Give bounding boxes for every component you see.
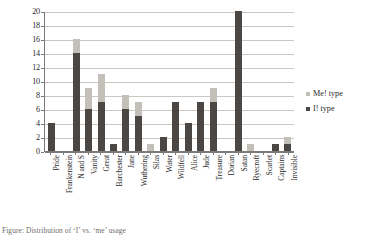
- x-axis-category-label: Dorian: [228, 155, 236, 176]
- bar-stack: [272, 144, 279, 151]
- bar-slot: [157, 12, 169, 151]
- bar-segment-me-type: [85, 88, 92, 109]
- legend: Me! typeI! type: [306, 88, 343, 118]
- bar-stack: [172, 102, 179, 151]
- x-axis-category-label: Barchester: [116, 155, 124, 186]
- y-axis-tick-label: 4: [36, 120, 40, 128]
- bar-series-container: [45, 12, 294, 151]
- bar-segment-i-type: [197, 102, 204, 151]
- bar-slot: [207, 12, 219, 151]
- x-axis-category-label: Treasure: [216, 155, 224, 181]
- bar-stack: [247, 144, 254, 151]
- y-axis: 02468101214161820: [0, 12, 40, 152]
- legend-swatch-icon: [306, 107, 310, 111]
- bar-slot: [219, 12, 231, 151]
- bar-stack: [235, 11, 242, 151]
- y-axis-tick-label: 2: [36, 134, 40, 142]
- bar-segment-me-type: [122, 95, 129, 109]
- bar-segment-i-type: [73, 53, 80, 151]
- bar-stack: [110, 144, 117, 151]
- bar-slot: [244, 12, 256, 151]
- x-axis-category-label: Frankenstein: [66, 155, 74, 193]
- y-axis-tick-label: 16: [32, 36, 40, 44]
- bar-slot: [82, 12, 94, 151]
- bar-segment-i-type: [210, 102, 217, 151]
- x-axis-category-label: Satan: [241, 155, 249, 171]
- x-axis-category-label: Wuthering: [141, 155, 149, 186]
- bar-segment-me-type: [247, 144, 254, 151]
- bar-segment-me-type: [135, 102, 142, 116]
- bar-segment-i-type: [284, 144, 291, 151]
- x-axis-labels: PrideFrankensteinN and SVanityGreatBarch…: [44, 155, 294, 227]
- x-axis-category-label: Captains: [278, 155, 286, 181]
- y-axis-tick-label: 10: [32, 78, 40, 86]
- bar-slot: [107, 12, 119, 151]
- bar-stack: [48, 123, 55, 151]
- x-axis-category-label: Pride: [53, 155, 61, 171]
- x-axis-category-label: Great: [103, 155, 111, 171]
- bar-segment-i-type: [135, 116, 142, 151]
- bar-slot: [145, 12, 157, 151]
- bar-stack: [73, 39, 80, 151]
- bar-segment-i-type: [85, 109, 92, 151]
- y-axis-tick-label: 20: [32, 8, 40, 16]
- bar-stack: [122, 95, 129, 151]
- bar-slot: [70, 12, 82, 151]
- bar-slot: [269, 12, 281, 151]
- y-axis-tick-label: 14: [32, 50, 40, 58]
- figure-caption: Figure: Distribution of ‘I’ vs. ‘me’ usa…: [2, 226, 126, 235]
- bar-segment-me-type: [98, 74, 105, 102]
- bar-stack: [284, 137, 291, 151]
- bar-stack: [85, 88, 92, 151]
- bar-slot: [132, 12, 144, 151]
- bar-slot: [57, 12, 69, 151]
- bar-segment-i-type: [185, 123, 192, 151]
- y-axis-tick-label: 18: [32, 22, 40, 30]
- bar-slot: [257, 12, 269, 151]
- y-axis-tick-label: 6: [36, 106, 40, 114]
- x-axis-category-label: Wildfell: [178, 155, 186, 179]
- bar-stack: [197, 102, 204, 151]
- bar-segment-i-type: [172, 102, 179, 151]
- x-axis-category-label: Water: [166, 155, 174, 172]
- bar-stack: [185, 123, 192, 151]
- x-axis-category-label: Ryecroft: [253, 155, 261, 180]
- bar-segment-me-type: [284, 137, 291, 144]
- y-axis-tick-label: 0: [36, 148, 40, 156]
- bar-segment-i-type: [122, 109, 129, 151]
- bar-chart: 02468101214161820 PrideFrankensteinN and…: [0, 0, 386, 236]
- legend-item-label: I! type: [313, 103, 335, 114]
- bar-stack: [147, 144, 154, 151]
- legend-swatch-icon: [306, 92, 310, 96]
- y-axis-tick-label: 8: [36, 92, 40, 100]
- legend-item-label: Me! type: [313, 88, 343, 99]
- x-axis-category-label: Scarlet: [266, 155, 274, 175]
- bar-slot: [182, 12, 194, 151]
- plot-area: [44, 12, 294, 152]
- bar-slot: [282, 12, 294, 151]
- legend-item: Me! type: [306, 88, 343, 99]
- bar-slot: [95, 12, 107, 151]
- legend-item: I! type: [306, 103, 343, 114]
- x-axis-category-label: Alice: [191, 155, 199, 171]
- bar-segment-i-type: [235, 11, 242, 151]
- bar-segment-me-type: [73, 39, 80, 53]
- bar-slot: [45, 12, 57, 151]
- bar-slot: [194, 12, 206, 151]
- bar-stack: [135, 102, 142, 151]
- x-axis-category-label: Vanity: [91, 155, 99, 174]
- bar-stack: [98, 74, 105, 151]
- x-axis-category-label: Invisible: [291, 155, 299, 181]
- bar-segment-i-type: [98, 102, 105, 151]
- bar-segment-i-type: [272, 144, 279, 151]
- bar-stack: [210, 88, 217, 151]
- x-axis-category-label: Jane: [128, 155, 136, 168]
- y-axis-tick-label: 12: [32, 64, 40, 72]
- bar-slot: [120, 12, 132, 151]
- bar-slot: [170, 12, 182, 151]
- bar-segment-i-type: [160, 137, 167, 151]
- bar-segment-i-type: [48, 123, 55, 151]
- bar-stack: [160, 137, 167, 151]
- x-axis-category-label: Silas: [153, 155, 161, 169]
- bar-segment-me-type: [210, 88, 217, 102]
